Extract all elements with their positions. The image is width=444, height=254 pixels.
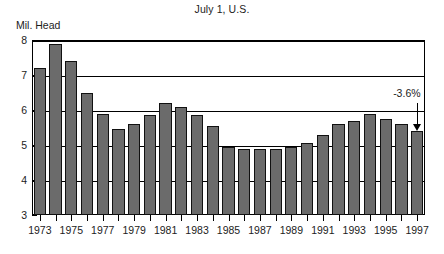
bar-1995 bbox=[380, 119, 392, 215]
y-tick-label-8: 8 bbox=[7, 35, 27, 45]
bar-1986 bbox=[238, 149, 250, 216]
x-tick-mark-1993 bbox=[354, 215, 355, 221]
x-tick-mark-1983 bbox=[197, 215, 198, 221]
x-tick-mark-1989 bbox=[291, 215, 292, 221]
y-tick-label-5: 5 bbox=[7, 140, 27, 150]
x-tick-label-1997: 1997 bbox=[397, 224, 437, 236]
bar-series bbox=[32, 40, 425, 215]
x-tick-mark-1981 bbox=[166, 215, 167, 221]
bar-1973 bbox=[34, 68, 46, 215]
bar-1985 bbox=[222, 147, 234, 215]
x-tick-mark-1997 bbox=[417, 215, 418, 221]
x-tick-mark-1986 bbox=[244, 215, 245, 221]
y-axis-unit-label: Mil. Head bbox=[16, 19, 60, 31]
x-tick-mark-1985 bbox=[229, 215, 230, 221]
bar-1975 bbox=[65, 61, 77, 215]
bar-1982 bbox=[175, 107, 187, 216]
x-tick-mark-1992 bbox=[339, 215, 340, 221]
x-tick-mark-1974 bbox=[56, 215, 57, 221]
bar-1974 bbox=[49, 44, 61, 216]
x-tick-mark-1979 bbox=[134, 215, 135, 221]
x-tick-mark-1987 bbox=[260, 215, 261, 221]
x-tick-mark-1996 bbox=[401, 215, 402, 221]
bar-1979 bbox=[128, 124, 140, 215]
bar-1993 bbox=[348, 121, 360, 216]
chart-title: July 1, U.S. bbox=[0, 3, 444, 15]
x-tick-mark-1991 bbox=[323, 215, 324, 221]
x-tick-mark-1975 bbox=[71, 215, 72, 221]
bar-1991 bbox=[317, 135, 329, 216]
bar-1992 bbox=[332, 124, 344, 215]
x-tick-mark-1984 bbox=[213, 215, 214, 221]
bar-1977 bbox=[97, 114, 109, 216]
x-tick-mark-1995 bbox=[386, 215, 387, 221]
bar-1988 bbox=[270, 149, 282, 216]
x-tick-mark-1982 bbox=[181, 215, 182, 221]
annotation-arrow-shaft-0 bbox=[417, 103, 418, 124]
x-tick-mark-1973 bbox=[40, 215, 41, 221]
annotation-label-0: -3.6% bbox=[393, 87, 420, 99]
bar-1978 bbox=[112, 129, 124, 215]
x-tick-mark-1994 bbox=[370, 215, 371, 221]
bar-1996 bbox=[395, 124, 407, 215]
y-tick-label-7: 7 bbox=[7, 70, 27, 80]
x-tick-mark-1978 bbox=[118, 215, 119, 221]
y-tick-label-3: 3 bbox=[7, 210, 27, 220]
chart-figure: July 1, U.S. Mil. Head 345678 1973197519… bbox=[0, 0, 444, 254]
y-tick-mark-3 bbox=[32, 215, 37, 216]
bar-1989 bbox=[285, 147, 297, 215]
x-tick-mark-1977 bbox=[103, 215, 104, 221]
y-tick-label-4: 4 bbox=[7, 175, 27, 185]
bar-1976 bbox=[81, 93, 93, 216]
bar-1987 bbox=[254, 149, 266, 216]
bar-1983 bbox=[191, 115, 203, 215]
bar-1981 bbox=[159, 103, 171, 215]
x-tick-mark-1988 bbox=[276, 215, 277, 221]
y-tick-label-6: 6 bbox=[7, 105, 27, 115]
annotation-arrow-head-0 bbox=[413, 124, 421, 131]
bar-1984 bbox=[207, 126, 219, 215]
x-tick-mark-1980 bbox=[150, 215, 151, 221]
bar-1990 bbox=[301, 143, 313, 215]
bar-1997 bbox=[411, 131, 423, 215]
bar-1994 bbox=[364, 114, 376, 216]
bar-1980 bbox=[144, 115, 156, 215]
x-tick-mark-1990 bbox=[307, 215, 308, 221]
x-tick-mark-1976 bbox=[87, 215, 88, 221]
